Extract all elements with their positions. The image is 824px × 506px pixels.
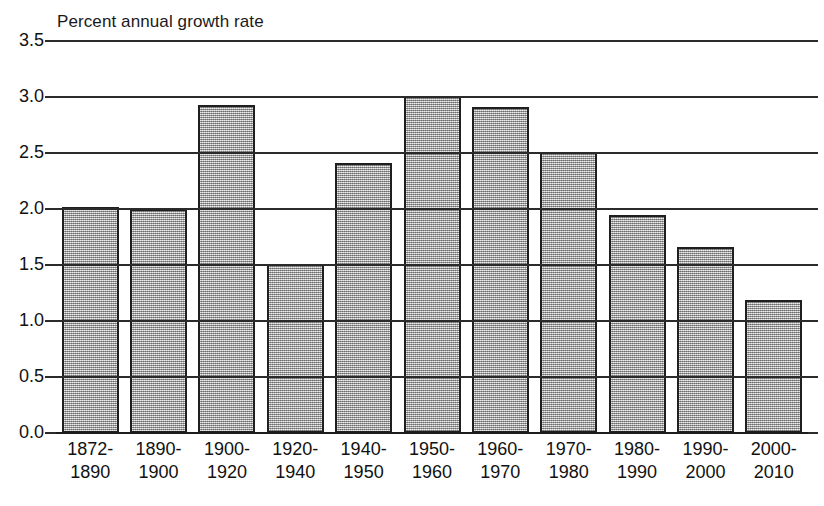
bar (404, 96, 461, 433)
x-axis-tick-label: 1940-1950 (329, 438, 397, 484)
bar-series (56, 40, 808, 432)
y-tick-left-2.5 (45, 152, 56, 154)
x-axis-tick-label: 1920-1940 (261, 438, 329, 484)
bar (267, 264, 324, 433)
y-tick-left-0.0 (45, 432, 56, 434)
x-axis-tick-label: 1872-1890 (56, 438, 124, 484)
y-axis-tick-label: 3.5 (0, 31, 44, 49)
y-tick-right-0.0 (808, 432, 818, 434)
x-axis-tick-label: 2000-2010 (740, 438, 808, 484)
y-axis-tick-label: 3.0 (0, 87, 44, 105)
y-tick-right-2.5 (808, 152, 818, 154)
bar (335, 163, 392, 433)
bar (130, 209, 187, 433)
bar (609, 215, 666, 433)
x-label-line-2: 1960 (398, 461, 466, 484)
x-label-line-2: 1980 (535, 461, 603, 484)
bar (198, 105, 255, 433)
x-axis-tick-label: 1890-1900 (124, 438, 192, 484)
x-label-line-2: 1990 (603, 461, 671, 484)
y-tick-left-1.5 (45, 264, 56, 266)
x-label-line-2: 1940 (261, 461, 329, 484)
y-tick-right-3.0 (808, 96, 818, 98)
y-tick-left-3.5 (45, 40, 56, 42)
plot-area (56, 40, 808, 432)
x-label-line-1: 1920- (272, 439, 318, 459)
y-tick-left-0.5 (45, 376, 56, 378)
x-label-line-2: 2000 (671, 461, 739, 484)
x-label-line-1: 1990- (682, 439, 728, 459)
x-label-line-1: 1940- (341, 439, 387, 459)
x-label-line-1: 1872- (67, 439, 113, 459)
y-tick-right-2.0 (808, 208, 818, 210)
x-label-line-2: 1900 (124, 461, 192, 484)
x-axis-tick-label: 1900-1920 (193, 438, 261, 484)
y-tick-right-1.0 (808, 320, 818, 322)
bar-chart: Percent annual growth rate 3.53.02.52.01… (0, 0, 824, 506)
y-axis-tick-label: 0.0 (0, 423, 44, 441)
x-axis-tick-label: 1960-1970 (466, 438, 534, 484)
x-label-line-1: 1980- (614, 439, 660, 459)
y-tick-left-3.0 (45, 96, 56, 98)
y-axis-tick-label: 2.5 (0, 143, 44, 161)
x-label-line-2: 1890 (56, 461, 124, 484)
x-label-line-1: 1900- (204, 439, 250, 459)
y-tick-right-3.5 (808, 40, 818, 42)
x-label-line-2: 1950 (329, 461, 397, 484)
y-axis-tick-label: 1.0 (0, 311, 44, 329)
bar (62, 207, 119, 433)
x-axis-labels: 1872-18901890-19001900-19201920-19401940… (56, 438, 808, 498)
y-tick-right-1.5 (808, 264, 818, 266)
x-label-line-2: 1920 (193, 461, 261, 484)
bar (677, 247, 734, 433)
chart-title: Percent annual growth rate (57, 12, 264, 32)
y-tick-right-0.5 (808, 376, 818, 378)
x-label-line-2: 2010 (740, 461, 808, 484)
y-axis-labels: 3.53.02.52.01.51.00.50.0 (0, 40, 44, 432)
y-axis-tick-label: 2.0 (0, 199, 44, 217)
y-tick-left-1.0 (45, 320, 56, 322)
bar (745, 300, 802, 433)
x-axis-tick-label: 1950-1960 (398, 438, 466, 484)
x-label-line-1: 1950- (409, 439, 455, 459)
bar (540, 152, 597, 433)
bar (472, 107, 529, 433)
y-axis-tick-label: 0.5 (0, 367, 44, 385)
x-label-line-2: 1970 (466, 461, 534, 484)
x-axis-tick-label: 1990-2000 (671, 438, 739, 484)
y-tick-left-2.0 (45, 208, 56, 210)
x-label-line-1: 1890- (136, 439, 182, 459)
y-axis-tick-label: 1.5 (0, 255, 44, 273)
x-label-line-1: 1960- (477, 439, 523, 459)
x-label-line-1: 1970- (546, 439, 592, 459)
x-axis-tick-label: 1970-1980 (535, 438, 603, 484)
x-axis-tick-label: 1980-1990 (603, 438, 671, 484)
x-label-line-1: 2000- (751, 439, 797, 459)
